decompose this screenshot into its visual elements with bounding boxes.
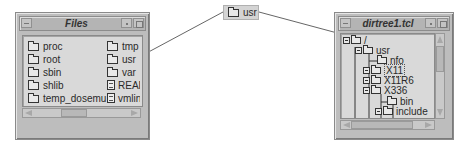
dirtree-window: dirtree1.tcl / usr nfo X11 bbox=[334, 12, 454, 140]
file-item-sbin[interactable]: sbin bbox=[28, 67, 61, 78]
expander-icon[interactable] bbox=[363, 77, 370, 84]
folder-icon bbox=[107, 69, 118, 77]
folder-icon bbox=[28, 43, 39, 51]
scroll-down-arrow-icon[interactable] bbox=[437, 109, 443, 116]
folder-icon bbox=[383, 108, 393, 115]
minimize-button[interactable] bbox=[121, 18, 132, 28]
files-titlebar[interactable]: Files bbox=[19, 16, 146, 31]
file-item-temp-dosemu[interactable]: temp_dosemu bbox=[28, 93, 106, 104]
window-menu-button[interactable] bbox=[340, 18, 351, 28]
dirtree-horizontal-scrollbar[interactable] bbox=[340, 120, 435, 130]
folder-icon bbox=[351, 37, 361, 44]
minimize-button[interactable] bbox=[425, 18, 436, 28]
files-horizontal-scrollbar[interactable] bbox=[22, 108, 141, 118]
scrollbar-thumb[interactable] bbox=[61, 109, 87, 117]
folder-icon bbox=[28, 95, 39, 103]
folder-icon bbox=[371, 87, 381, 94]
files-window-title: Files bbox=[36, 17, 117, 30]
file-item-usr[interactable]: usr bbox=[107, 54, 136, 65]
scrollbar-thumb[interactable] bbox=[351, 121, 413, 129]
dirtree-window-title: dirtree1.tcl bbox=[355, 17, 421, 30]
dirtree-pane: / usr nfo X11 X11R6 X336 bin include bbox=[340, 33, 435, 119]
maximize-button[interactable] bbox=[437, 18, 448, 28]
folder-icon bbox=[28, 69, 39, 77]
file-item-shlib[interactable]: shlib bbox=[28, 80, 64, 91]
folder-icon bbox=[371, 77, 381, 84]
file-item-readme[interactable]: READ bbox=[107, 80, 140, 91]
file-item-root[interactable]: root bbox=[28, 54, 60, 65]
tree-node-include[interactable]: include bbox=[375, 107, 428, 117]
scrollbar-thumb[interactable] bbox=[436, 46, 444, 72]
scroll-right-arrow-icon[interactable] bbox=[131, 110, 138, 116]
dirtree-titlebar[interactable]: dirtree1.tcl bbox=[338, 16, 450, 31]
folder-icon bbox=[387, 98, 397, 105]
document-icon bbox=[107, 93, 115, 103]
files-window: Files proc root sbin shlib temp_dosemu t… bbox=[15, 12, 150, 140]
file-item-var[interactable]: var bbox=[107, 67, 136, 78]
scroll-up-arrow-icon[interactable] bbox=[437, 36, 443, 43]
expander-icon[interactable] bbox=[343, 37, 350, 44]
maximize-button[interactable] bbox=[133, 18, 144, 28]
folder-icon bbox=[228, 9, 239, 17]
file-item-proc[interactable]: proc bbox=[28, 41, 62, 52]
files-list-pane: proc root sbin shlib temp_dosemu tmp usr… bbox=[22, 35, 143, 107]
expander-icon[interactable] bbox=[355, 47, 362, 54]
scroll-left-arrow-icon[interactable] bbox=[343, 122, 350, 128]
tree-node-usr[interactable]: usr bbox=[355, 46, 390, 56]
folder-icon bbox=[363, 47, 373, 54]
dirtree-vertical-scrollbar[interactable] bbox=[435, 33, 445, 119]
expander-icon[interactable] bbox=[363, 87, 370, 94]
folder-icon bbox=[107, 56, 118, 64]
scroll-right-arrow-icon[interactable] bbox=[425, 122, 432, 128]
tree-node-x336[interactable]: X336 bbox=[363, 86, 407, 96]
folder-icon bbox=[28, 82, 39, 90]
document-icon bbox=[107, 80, 115, 90]
window-menu-button[interactable] bbox=[21, 18, 32, 28]
drag-label-usr[interactable]: usr bbox=[223, 5, 259, 20]
folder-icon bbox=[107, 43, 118, 51]
expander-icon[interactable] bbox=[375, 108, 382, 115]
folder-icon bbox=[371, 67, 381, 74]
folder-icon bbox=[28, 56, 39, 64]
file-item-tmp[interactable]: tmp bbox=[107, 41, 139, 52]
scroll-left-arrow-icon[interactable] bbox=[25, 110, 32, 116]
file-item-vmlinuz[interactable]: vmlinu bbox=[107, 93, 140, 104]
folder-icon bbox=[377, 57, 387, 64]
expander-icon[interactable] bbox=[363, 67, 370, 74]
